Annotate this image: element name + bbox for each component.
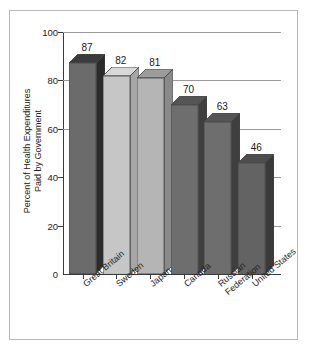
bar-value-label: 63 — [202, 101, 242, 112]
bar[interactable] — [103, 67, 139, 274]
bar[interactable] — [137, 69, 173, 274]
y-axis-line — [63, 33, 64, 275]
bar-front-face — [103, 76, 130, 274]
y-axis-tick-label: 20 — [28, 221, 58, 232]
bar-value-label: 87 — [67, 42, 107, 53]
bar-side-face — [265, 154, 274, 274]
bar[interactable] — [171, 96, 207, 274]
bar-front-face — [137, 78, 164, 274]
gridline — [63, 32, 281, 33]
bar-chart: Percent of Health Expenditures Paid by G… — [0, 0, 309, 352]
bar-front-face — [171, 105, 198, 274]
bar-front-face — [69, 63, 96, 274]
y-axis-tick — [58, 32, 63, 33]
y-axis-tick-label: 80 — [28, 75, 58, 86]
y-axis-tick-label: 100 — [28, 27, 58, 38]
y-axis-tick — [58, 226, 63, 227]
y-axis-tick — [58, 129, 63, 130]
bar[interactable] — [69, 54, 105, 274]
bar-value-label: 46 — [236, 142, 276, 153]
bar-value-label: 81 — [135, 57, 175, 68]
bar[interactable] — [238, 154, 274, 274]
y-axis-tick-labels: 100806040200 — [28, 33, 58, 275]
bar[interactable] — [204, 113, 240, 274]
y-axis-tick — [58, 80, 63, 81]
y-axis-tick — [58, 177, 63, 178]
y-axis-tick-label: 60 — [28, 124, 58, 135]
y-axis-tick-label: 40 — [28, 172, 58, 183]
bar-value-label: 70 — [169, 84, 209, 95]
bar-front-face — [204, 122, 231, 274]
plot-area: 878281706346 — [63, 33, 281, 275]
y-axis-tick-label: 0 — [28, 269, 58, 280]
